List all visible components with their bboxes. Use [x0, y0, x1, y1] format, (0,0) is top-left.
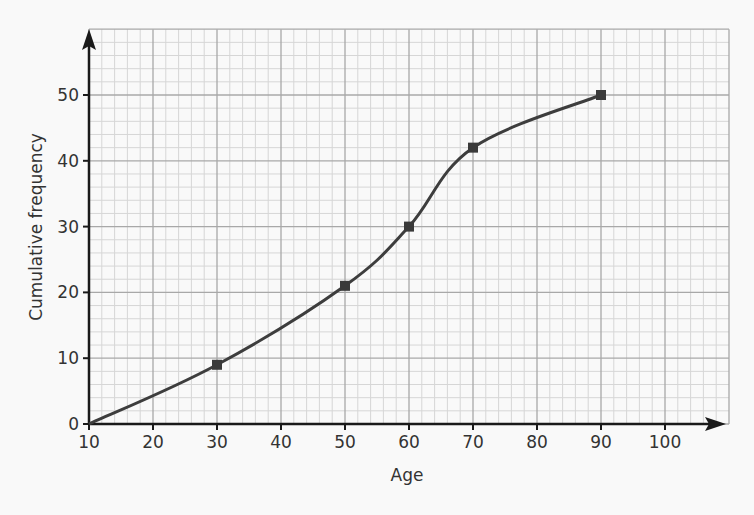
y-tick-label: 10: [57, 348, 79, 368]
y-tick-label: 40: [57, 151, 79, 171]
x-tick-label: 50: [334, 432, 356, 452]
data-point-marker: [340, 281, 350, 291]
x-tick-label: 30: [206, 432, 228, 452]
data-point-marker: [468, 143, 478, 153]
y-tick-label: 0: [68, 414, 79, 434]
cumulative-frequency-chart: 10203040506070809010001020304050 Age Cum…: [0, 0, 754, 515]
x-tick-label: 70: [462, 432, 484, 452]
x-tick-label: 10: [78, 432, 100, 452]
y-tick-label: 50: [57, 85, 79, 105]
y-axis-title: Cumulative frequency: [26, 133, 46, 321]
x-axis-title: Age: [391, 465, 424, 485]
data-point-marker: [596, 90, 606, 100]
y-tick-label: 20: [57, 282, 79, 302]
data-point-marker: [404, 222, 414, 232]
y-tick-label: 30: [57, 217, 79, 237]
x-tick-label: 20: [142, 432, 164, 452]
x-tick-label: 60: [398, 432, 420, 452]
x-tick-label: 100: [649, 432, 681, 452]
x-tick-label: 80: [526, 432, 548, 452]
x-tick-label: 40: [270, 432, 292, 452]
x-tick-label: 90: [590, 432, 612, 452]
data-point-marker: [212, 360, 222, 370]
